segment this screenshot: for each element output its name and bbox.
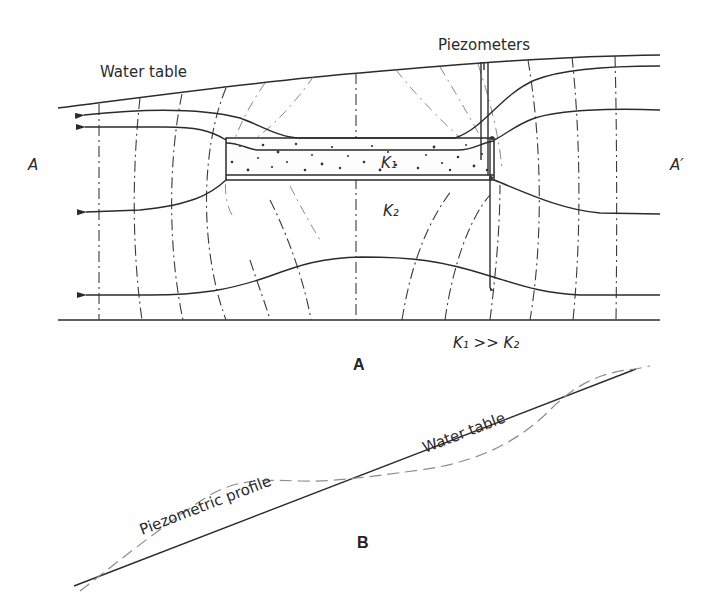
equipotential-lines [99, 56, 617, 320]
flow-line-2 [85, 109, 660, 140]
piezometric-profile-label: Piezometric profile [137, 472, 274, 539]
flow-net-figure: K₁ Piezometers Water table A A′ K₂ K₁ >>… [0, 0, 719, 612]
matrix-k2-label: K₂ [383, 202, 399, 220]
high-k-lens: K₁ [226, 138, 494, 180]
water-table-label-a: Water table [100, 63, 187, 81]
panel-b-label: B [357, 534, 369, 551]
panel-b: Water table Piezometric profile B [74, 366, 650, 591]
diagram-canvas: K₁ Piezometers Water table A A′ K₂ K₁ >>… [0, 0, 719, 612]
section-end-label: A′ [669, 156, 684, 174]
lens-k1-label: K₁ [381, 154, 397, 172]
piezometric-profile-line [80, 366, 650, 591]
panel-a: K₁ Piezometers Water table A A′ K₂ K₁ >>… [27, 36, 684, 373]
panel-a-label: A [353, 356, 365, 373]
flow-line-4 [86, 257, 660, 295]
water-table-line-b [74, 369, 636, 586]
piezometers-label: Piezometers [438, 36, 530, 54]
k-relation-label: K₁ >> K₂ [453, 334, 519, 352]
section-start-label: A [27, 156, 38, 174]
